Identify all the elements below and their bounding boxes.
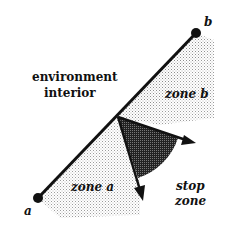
- point-a-label: a: [24, 204, 32, 218]
- zone-a-label: zone a: [70, 180, 114, 194]
- zone-b-label: zone b: [164, 87, 209, 101]
- environment-label-line1: environment: [32, 70, 118, 84]
- point-a-dot: [33, 193, 43, 203]
- point-b-label: b: [204, 15, 212, 29]
- environment-label-line2: interior: [44, 86, 96, 100]
- stop-zone-label-line1: stop: [176, 179, 205, 193]
- environment-diagram: environment interior zone b zone a stop …: [0, 0, 225, 232]
- arrow-right-head-icon: [181, 135, 196, 145]
- point-b-dot: [191, 28, 201, 38]
- stop-zone-label-line2: zone: [174, 194, 207, 208]
